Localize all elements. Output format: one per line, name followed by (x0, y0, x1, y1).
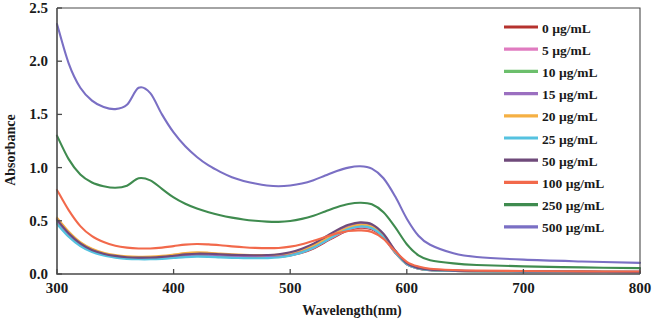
absorbance-spectrum-figure: 300400500600700800 0.00.51.01.52.02.5 0 … (0, 0, 656, 321)
legend-label: 50 µg/mL (542, 154, 597, 169)
y-axis-title: Absorbance (3, 114, 18, 186)
x-tick-label: 400 (162, 280, 185, 296)
legend-label: 100 µg/mL (542, 176, 604, 191)
legend-label: 250 µg/mL (542, 198, 604, 213)
x-tick-label: 500 (279, 280, 302, 296)
chart-canvas: 300400500600700800 0.00.51.01.52.02.5 0 … (0, 0, 656, 321)
legend-label: 0 µg/mL (542, 21, 591, 36)
y-tick-label: 1.5 (29, 106, 48, 122)
x-tick-label: 700 (512, 280, 535, 296)
x-axis-title: Wavelength(nm) (302, 303, 402, 319)
y-tick-label: 2.5 (29, 0, 48, 16)
x-tick-label: 600 (396, 280, 419, 296)
x-tick-label: 300 (46, 280, 69, 296)
legend-label: 500 µg/mL (542, 220, 604, 235)
legend-label: 25 µg/mL (542, 132, 597, 147)
y-tick-label: 1.0 (29, 160, 48, 176)
legend-label: 20 µg/mL (542, 109, 597, 124)
x-tick-label: 800 (629, 280, 652, 296)
y-tick-label: 2.0 (29, 53, 48, 69)
legend-label: 15 µg/mL (542, 87, 597, 102)
legend-label: 10 µg/mL (542, 65, 597, 80)
y-tick-label: 0.5 (29, 213, 48, 229)
legend-label: 5 µg/mL (542, 43, 591, 58)
y-tick-label: 0.0 (29, 266, 48, 282)
